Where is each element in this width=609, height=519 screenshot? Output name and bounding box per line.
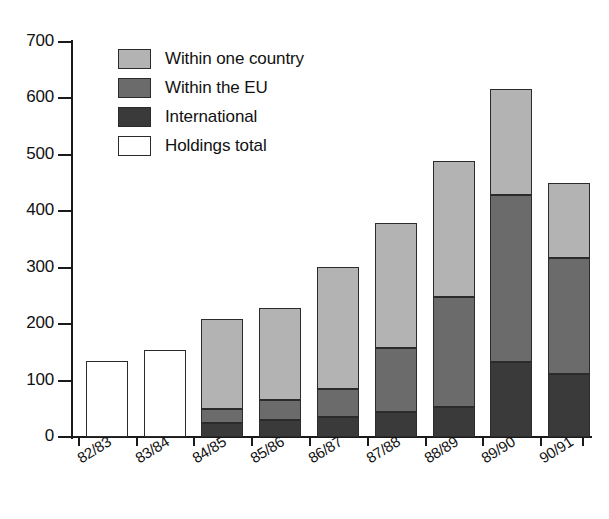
bar-90-91: [548, 42, 590, 437]
bar-segment-international: [548, 374, 590, 437]
y-axis-tick-label: 200: [2, 313, 54, 333]
bar-segment-international: [259, 420, 301, 437]
x-axis-tick: [309, 437, 311, 446]
bar-88-89: [433, 42, 475, 437]
bar-86-87: [317, 42, 359, 437]
x-axis-tick: [582, 437, 584, 446]
x-axis-tick: [482, 437, 484, 446]
bar-segment-one-country: [259, 308, 301, 400]
y-axis-tick: [58, 97, 72, 99]
legend-item-within-eu: Within the EU: [118, 73, 304, 102]
x-axis-tick: [425, 437, 427, 446]
y-axis-tick-label: 500: [2, 144, 54, 164]
y-axis-tick-label: 400: [2, 200, 54, 220]
bar-segment-international: [433, 407, 475, 437]
bar-segment-one-country: [548, 183, 590, 258]
legend-swatch-one-country: [118, 49, 151, 69]
bar-segment-international: [490, 362, 532, 437]
bar-segment-one-country: [201, 319, 243, 409]
y-axis-tick: [58, 436, 72, 438]
legend-item-holdings: Holdings total: [118, 131, 304, 160]
bar-segment-within-eu: [201, 409, 243, 423]
bar-segment-international: [375, 412, 417, 437]
y-axis-tick-label: 600: [2, 87, 54, 107]
legend-item-one-country: Within one country: [118, 44, 304, 73]
bar-segment-international: [201, 423, 243, 437]
bar-87-88: [375, 42, 417, 437]
bar-segment-within-eu: [490, 195, 532, 362]
x-axis-tick: [193, 437, 195, 446]
y-axis-tick: [58, 41, 72, 43]
x-axis-tick: [136, 437, 138, 446]
legend-swatch-within-eu: [118, 78, 151, 98]
legend-item-international: International: [118, 102, 304, 131]
legend-label: Holdings total: [165, 136, 267, 156]
legend-label: Within one country: [165, 49, 304, 69]
y-axis-tick-label: 0: [2, 426, 54, 446]
x-axis-tick: [251, 437, 253, 446]
stacked-bar-chart: 7006005004003002001000 82/8383/8484/8585…: [0, 0, 609, 519]
bar-segment-within-eu: [433, 297, 475, 407]
legend-swatch-holdings: [118, 136, 151, 156]
legend-swatch-international: [118, 107, 151, 127]
legend-label: Within the EU: [165, 78, 268, 98]
bar-segment-one-country: [490, 89, 532, 195]
bar-segment-within-eu: [548, 258, 590, 374]
legend-label: International: [165, 107, 257, 127]
y-axis-tick: [58, 323, 72, 325]
bar-segment-within-eu: [317, 389, 359, 417]
bar-segment-holdings: [144, 350, 186, 437]
bar-89-90: [490, 42, 532, 437]
y-axis-tick: [58, 210, 72, 212]
bar-segment-one-country: [433, 161, 475, 298]
y-axis-tick-label: 300: [2, 257, 54, 277]
y-axis-tick-label: 100: [2, 370, 54, 390]
x-axis-tick: [78, 437, 80, 446]
bar-segment-one-country: [317, 267, 359, 389]
chart-legend: Within one countryWithin the EUInternati…: [118, 44, 304, 160]
y-axis-tick: [58, 267, 72, 269]
bar-segment-holdings: [86, 361, 128, 437]
bar-segment-one-country: [375, 223, 417, 348]
bar-segment-within-eu: [375, 348, 417, 412]
x-axis-tick: [367, 437, 369, 446]
y-axis-tick-label: 700: [2, 31, 54, 51]
x-axis-tick: [540, 437, 542, 446]
bar-segment-within-eu: [259, 400, 301, 420]
bar-segment-international: [317, 417, 359, 437]
y-axis-tick: [58, 380, 72, 382]
y-axis-tick: [58, 154, 72, 156]
